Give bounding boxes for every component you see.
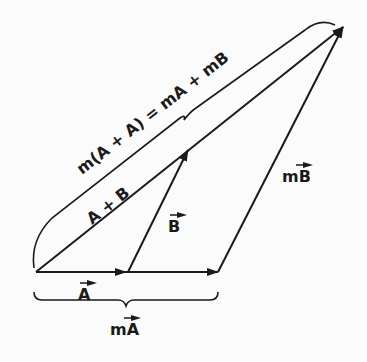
label-mb: mB (282, 167, 311, 186)
vector-b-line (128, 150, 188, 272)
label-a: A (78, 285, 91, 304)
vector-sum-line (36, 27, 343, 272)
vector-diagram: A mA B mB A + B m(A + A) = mA + mB (0, 0, 367, 362)
brace-msum (33, 22, 335, 268)
vector-mb-line (218, 27, 343, 272)
label-m-sum: m(A + A) = mA + mB (73, 48, 233, 178)
brace-ma (34, 292, 218, 306)
diagram-canvas: A mA B mB A + B m(A + A) = mA + mB (0, 0, 367, 362)
label-b: B (168, 217, 180, 236)
label-sum-ab: A + B (83, 183, 133, 228)
label-ma: mA (110, 320, 140, 339)
